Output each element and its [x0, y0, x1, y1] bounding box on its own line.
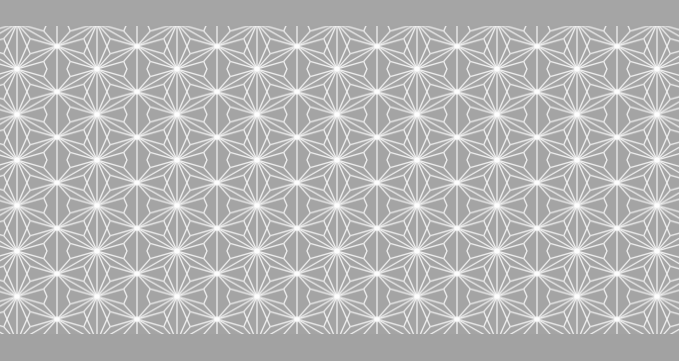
- asanoha-pattern-icon: [0, 26, 679, 334]
- asanoha-pattern-band: [0, 26, 679, 334]
- fabric-photo: [0, 0, 679, 361]
- plain-fabric-top: [0, 0, 679, 26]
- plain-fabric-bottom: [0, 334, 679, 361]
